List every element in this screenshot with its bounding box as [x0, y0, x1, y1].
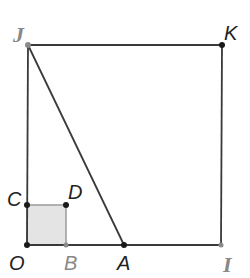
point-o: [24, 242, 30, 248]
label-o: O: [9, 252, 25, 274]
segment-oj: [27, 45, 28, 245]
shaded-square-obdc: [27, 205, 66, 245]
point-c: [24, 202, 30, 208]
label-j: J: [12, 22, 25, 47]
label-i: I: [222, 252, 233, 277]
label-k: K: [224, 22, 239, 44]
label-b: B: [64, 252, 77, 274]
point-b: [64, 243, 69, 248]
geometry-diagram: J K C D O B A I: [0, 0, 250, 278]
point-i: [219, 243, 224, 248]
label-d: D: [68, 181, 82, 203]
label-a: A: [116, 252, 130, 274]
label-c: C: [7, 188, 22, 210]
segment-ki: [221, 45, 222, 245]
point-j: [25, 42, 31, 48]
point-a: [121, 242, 127, 248]
